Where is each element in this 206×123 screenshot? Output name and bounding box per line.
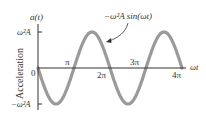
origin-label: 0 (31, 68, 36, 78)
acceleration-chart: a(t) ω²A −ω²A Acceleration 0 π 2π 3π 4π … (0, 0, 206, 123)
x-axis-symbol: ωt (190, 62, 199, 72)
x-tick-label-3pi: 3π (130, 57, 140, 67)
curve-annotation: −ω²A sin(ωt) (104, 11, 152, 21)
x-tick-label-4pi: 4π (172, 70, 182, 80)
x-tick-label-pi: π (65, 57, 70, 67)
y-tick-label-top: ω²A (17, 27, 32, 37)
y-axis-symbol: a(t) (30, 12, 43, 22)
x-tick-label-2pi: 2π (97, 70, 107, 80)
arrowhead-icon (106, 38, 112, 43)
annotation-arrow (109, 23, 128, 41)
y-axis-title: Acceleration (14, 48, 25, 99)
y-tick-label-bottom: −ω²A (11, 99, 31, 109)
